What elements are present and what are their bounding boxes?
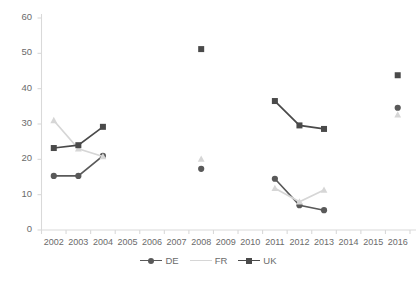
legend-label: DE	[165, 255, 178, 266]
data-point	[50, 117, 57, 123]
data-point	[75, 173, 81, 179]
data-point	[198, 46, 204, 52]
legend-item-uk[interactable]: UK	[238, 255, 276, 266]
y-axis-tick-label: 0	[10, 223, 32, 234]
data-point	[272, 176, 278, 182]
x-axis-tick-label: 2016	[383, 237, 413, 247]
legend-swatch-uk-icon	[238, 256, 260, 266]
legend-item-de[interactable]: DE	[140, 255, 178, 266]
legend-swatch-de-icon	[140, 256, 162, 266]
data-point	[271, 185, 278, 191]
data-point	[321, 207, 327, 213]
chart-legend: DEFRUK	[0, 255, 417, 266]
data-point	[198, 166, 204, 172]
data-point	[395, 105, 401, 111]
legend-swatch-fr-icon	[190, 256, 212, 266]
y-axis-tick-label: 40	[10, 82, 32, 93]
data-point	[321, 186, 328, 192]
line-chart: 0102030405060 20022003200420052006200720…	[0, 0, 417, 281]
y-axis-tick-label: 50	[10, 46, 32, 57]
data-point	[100, 124, 106, 130]
y-axis-tick-label: 20	[10, 152, 32, 163]
y-axis-tick-label: 30	[10, 117, 32, 128]
data-point	[51, 145, 57, 151]
data-point	[394, 111, 401, 117]
data-point	[75, 142, 81, 148]
data-series-group	[50, 46, 401, 213]
legend-label: UK	[263, 255, 276, 266]
y-axis-tick-label: 60	[10, 11, 32, 22]
legend-item-fr[interactable]: FR	[190, 255, 228, 266]
data-point	[296, 122, 302, 128]
data-point	[395, 72, 401, 78]
series-uk	[51, 46, 401, 151]
data-point	[198, 155, 205, 161]
data-point	[272, 98, 278, 104]
y-axis-tick-label: 10	[10, 188, 32, 199]
data-point	[321, 126, 327, 132]
data-point	[51, 173, 57, 179]
legend-label: FR	[215, 255, 228, 266]
axes	[38, 14, 417, 234]
